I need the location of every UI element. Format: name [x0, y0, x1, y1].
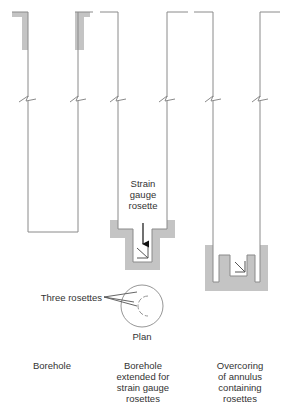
caption-line: extended for — [108, 371, 178, 382]
label-line: rosette — [124, 200, 162, 211]
caption-line: rosettes — [108, 393, 178, 404]
plan-view — [104, 285, 163, 327]
surface-shading-right — [75, 12, 90, 50]
rosette-icon — [137, 247, 148, 258]
caption-line: of annulus — [205, 371, 275, 382]
rosette-icon-overcored — [235, 261, 245, 272]
caption-line: Borehole — [20, 360, 84, 371]
caption-line: Borehole — [108, 360, 178, 371]
caption-line: containing — [205, 382, 275, 393]
caption-line: Overcoring — [205, 360, 275, 371]
leader-lines — [104, 292, 137, 306]
label-line: Strain — [124, 178, 162, 189]
stage-overcoring — [194, 12, 280, 291]
label-line: gauge — [124, 189, 162, 200]
caption-line: rosettes — [205, 393, 275, 404]
stage-extended — [100, 12, 188, 270]
plan-inner-rosettes — [138, 296, 148, 316]
caption-extended: Borehole extended for strain gauge roset… — [108, 360, 178, 404]
strain-gauge-rosette-label: Strain gauge rosette — [124, 178, 162, 211]
plan-label: Plan — [126, 331, 158, 342]
three-rosettes-label: Three rosettes — [30, 292, 102, 303]
caption-line: strain gauge — [108, 382, 178, 393]
annulus-shading — [205, 245, 268, 291]
stage-borehole — [12, 12, 93, 232]
caption-borehole: Borehole — [20, 360, 84, 371]
surface-shading-left — [12, 12, 28, 50]
caption-overcoring: Overcoring of annulus containing rosette… — [205, 360, 275, 404]
plan-outer-circle — [121, 285, 163, 327]
